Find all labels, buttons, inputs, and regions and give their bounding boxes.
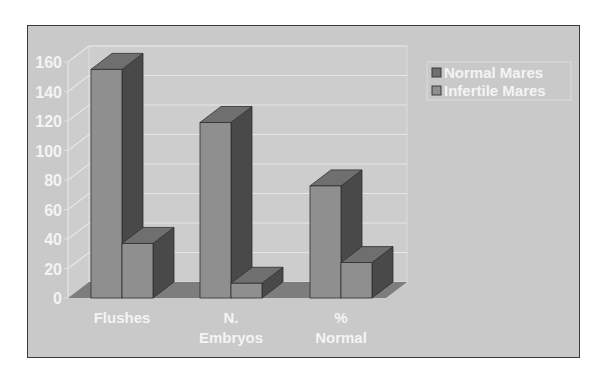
x-category-label: N. [224,309,239,326]
y-tick-label: 60 [44,202,62,219]
y-tick-label: 100 [35,143,62,160]
y-tick-label: 80 [44,172,62,189]
y-tick-label: 20 [44,261,62,278]
x-category-label: Flushes [94,309,151,326]
x-category-label: % [334,309,347,326]
x-axis-labels: FlushesN.Embryos%Normal [94,309,367,346]
legend-label-infertile: Infertile Mares [444,82,546,99]
legend-item-infertile-mares: Infertile Mares [432,82,546,99]
y-tick-label: 0 [53,290,62,307]
x-category-label: Embryos [199,329,263,346]
y-axis: 020406080100120140160 [35,54,68,307]
legend: Normal Mares Infertile Mares [427,62,571,100]
x-category-label: Normal [315,329,367,346]
y-tick-label: 140 [35,84,62,101]
legend-item-normal-mares: Normal Mares [432,64,543,81]
y-tick-label: 40 [44,231,62,248]
y-tick-label: 160 [35,54,62,71]
bar-normal-mares [200,106,252,298]
bar-infertile-mares [122,227,174,298]
bar-chart: 020406080100120140160 FlushesN.Embryos%N… [0,0,607,379]
legend-swatch-normal [432,68,441,77]
legend-swatch-infertile [432,86,441,95]
legend-label-normal: Normal Mares [444,64,543,81]
y-tick-label: 120 [35,113,62,130]
